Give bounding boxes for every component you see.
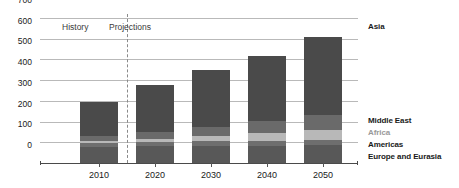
bar-2010 xyxy=(80,102,118,163)
y-axis-tick-label: 600 xyxy=(0,16,32,26)
x-axis-tick xyxy=(99,163,100,167)
bar-segment-americas-2040 xyxy=(248,141,286,146)
stacked-bar-chart: 0100200300400500600700 20102020203020402… xyxy=(0,0,459,188)
bar-segment-africa-2030 xyxy=(192,136,230,141)
y-axis-tick-label: 500 xyxy=(0,36,32,46)
bar-segment-africa-2010 xyxy=(80,141,118,143)
y-axis: 0100200300400500600700 xyxy=(0,0,36,145)
y-axis-tick-label: 100 xyxy=(0,119,32,129)
x-axis-label-2030: 2030 xyxy=(181,170,241,180)
bar-segment-asia-2020 xyxy=(136,85,174,132)
x-axis-line xyxy=(40,163,358,164)
bar-2050 xyxy=(304,37,342,163)
x-axis-label-2040: 2040 xyxy=(237,170,297,180)
axis-right-tick xyxy=(357,161,358,165)
bar-segment-middle-east-2020 xyxy=(136,132,174,139)
bar-segment-middle-east-2040 xyxy=(248,121,286,133)
x-axis-tick xyxy=(155,163,156,167)
bar-segment-americas-2030 xyxy=(192,141,230,146)
bar-2020 xyxy=(136,85,174,163)
bar-segment-asia-2050 xyxy=(304,37,342,115)
bar-segment-middle-east-2050 xyxy=(304,115,342,130)
y-axis-tick-label: 0 xyxy=(0,140,32,150)
series-label-asia: Asia xyxy=(368,22,385,31)
y-axis-tick-label: 300 xyxy=(0,78,32,88)
y-axis-tick-label: 700 xyxy=(0,0,32,5)
bar-segment-europe-and-eurasia-2040 xyxy=(248,146,286,163)
bar-segment-africa-2040 xyxy=(248,133,286,140)
axis-left-tick xyxy=(40,161,41,165)
bar-segment-europe-and-eurasia-2010 xyxy=(80,147,118,163)
series-label-africa: Africa xyxy=(368,128,390,137)
bar-2030 xyxy=(192,70,230,163)
bar-segment-europe-and-eurasia-2020 xyxy=(136,146,174,163)
bar-segment-asia-2040 xyxy=(248,56,286,121)
bar-segment-europe-and-eurasia-2030 xyxy=(192,146,230,163)
bar-segment-americas-2020 xyxy=(136,142,174,146)
series-label-europe-and-eurasia: Europe and Eurasia xyxy=(368,152,441,161)
plot-area: 20102020203020402050 xyxy=(40,18,358,163)
series-label-americas: Americas xyxy=(368,140,403,149)
x-axis-tick xyxy=(211,163,212,167)
bar-segment-americas-2050 xyxy=(304,140,342,145)
bar-segment-americas-2010 xyxy=(80,143,118,147)
x-axis-tick xyxy=(323,163,324,167)
x-axis-label-2020: 2020 xyxy=(125,170,185,180)
bar-2040 xyxy=(248,56,286,163)
x-axis-label-2010: 2010 xyxy=(69,170,129,180)
history-projections-divider xyxy=(127,14,128,163)
series-label-middle-east: Middle East xyxy=(368,116,411,125)
bar-segment-middle-east-2030 xyxy=(192,127,230,136)
bar-segment-africa-2020 xyxy=(136,139,174,143)
bar-segment-europe-and-eurasia-2050 xyxy=(304,145,342,163)
projections-label: Projections xyxy=(109,22,151,32)
bar-segment-africa-2050 xyxy=(304,130,342,140)
bar-segment-middle-east-2010 xyxy=(80,136,118,141)
history-label: History xyxy=(62,22,88,32)
x-axis-label-2050: 2050 xyxy=(293,170,353,180)
x-axis-tick xyxy=(267,163,268,167)
bar-segment-asia-2010 xyxy=(80,102,118,136)
gridline xyxy=(40,18,358,19)
y-axis-tick-label: 200 xyxy=(0,99,32,109)
bar-segment-asia-2030 xyxy=(192,70,230,127)
y-axis-tick-label: 400 xyxy=(0,57,32,67)
